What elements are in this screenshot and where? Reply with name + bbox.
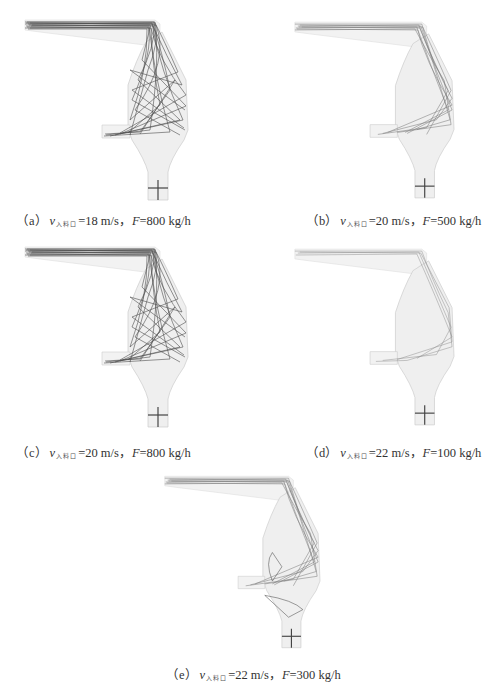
flow-value: =800 kg/h bbox=[140, 214, 191, 228]
caption-e: （e）v入料口=22 m/s，F=300 kg/h bbox=[166, 664, 341, 683]
caption-d: （d）v入料口=22 m/s，F=100 kg/h bbox=[306, 442, 481, 461]
flow-value: =300 kg/h bbox=[290, 668, 341, 682]
caption-label: （c） bbox=[16, 446, 48, 460]
panel-c-trajectory-plot bbox=[20, 237, 230, 437]
panel-a-trajectory-plot bbox=[20, 10, 230, 210]
caption-b: （b）v入料口=20 m/s，F=500 kg/h bbox=[306, 210, 481, 229]
panel-b-trajectory-plot bbox=[290, 10, 495, 210]
trajectory-diagram-c bbox=[20, 237, 230, 437]
flow-symbol: F bbox=[132, 214, 140, 228]
caption-label: （a） bbox=[16, 214, 48, 228]
velocity-value: =20 m/s， bbox=[78, 446, 132, 460]
panel-e-trajectory-plot bbox=[160, 462, 360, 662]
velocity-subscript: 入料口 bbox=[56, 453, 77, 459]
velocity-symbol: v bbox=[200, 668, 206, 682]
caption-a: （a）v入料口=18 m/s，F=800 kg/h bbox=[16, 210, 191, 229]
velocity-symbol: v bbox=[50, 446, 56, 460]
flow-value: =500 kg/h bbox=[430, 214, 481, 228]
caption-label: （e） bbox=[166, 668, 198, 682]
velocity-value: =20 m/s， bbox=[369, 214, 423, 228]
caption-c: （c）v入料口=20 m/s，F=800 kg/h bbox=[16, 442, 191, 461]
velocity-subscript: 入料口 bbox=[347, 453, 368, 459]
velocity-value: =22 m/s， bbox=[369, 446, 423, 460]
panel-d-trajectory-plot bbox=[290, 237, 495, 437]
velocity-value: =22 m/s， bbox=[228, 668, 282, 682]
velocity-symbol: v bbox=[340, 446, 346, 460]
velocity-subscript: 入料口 bbox=[347, 221, 368, 227]
velocity-subscript: 入料口 bbox=[56, 221, 77, 227]
caption-label: （b） bbox=[306, 214, 338, 228]
trajectory-diagram-a bbox=[20, 10, 230, 210]
flow-symbol: F bbox=[132, 446, 140, 460]
velocity-value: =18 m/s， bbox=[78, 214, 132, 228]
trajectory-diagram-b bbox=[290, 10, 495, 210]
trajectory-diagram-d bbox=[290, 237, 495, 437]
caption-label: （d） bbox=[306, 446, 338, 460]
flow-value: =100 kg/h bbox=[430, 446, 481, 460]
velocity-symbol: v bbox=[50, 214, 56, 228]
velocity-subscript: 入料口 bbox=[206, 675, 227, 681]
flow-value: =800 kg/h bbox=[140, 446, 191, 460]
flow-symbol: F bbox=[282, 668, 290, 682]
trajectory-diagram-e bbox=[160, 462, 360, 662]
velocity-symbol: v bbox=[340, 214, 346, 228]
